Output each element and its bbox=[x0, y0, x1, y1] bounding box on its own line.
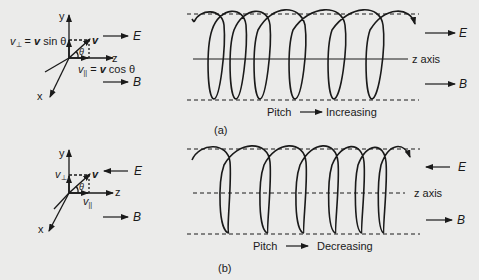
e-field-label-right: E bbox=[459, 26, 468, 40]
e-field-label-left: E bbox=[134, 164, 143, 178]
panel-b: y z x v θ v⊥ v|| E B z axis E B Pitch De… bbox=[38, 146, 467, 274]
panel-a: y z x v θ v⊥ = v sin θ v|| = v cos θ E B… bbox=[10, 10, 468, 136]
velocity-label: v bbox=[92, 34, 99, 46]
theta-arc bbox=[76, 51, 78, 58]
e-field-label-left: E bbox=[133, 29, 142, 43]
y-axis-label: y bbox=[59, 10, 65, 22]
x-axis-arrow bbox=[49, 193, 69, 231]
helix-diagram: y z x v θ v⊥ = v sin θ v|| = v cos θ E B… bbox=[0, 0, 479, 280]
caption-a: (a) bbox=[214, 124, 227, 136]
theta-label: θ bbox=[79, 182, 84, 192]
velocity-label: v bbox=[92, 168, 99, 180]
b-field-label-right: B bbox=[459, 77, 467, 91]
v-perp-equation: v⊥ = v sin θ bbox=[10, 35, 66, 48]
v-par-equation: v|| = v cos θ bbox=[78, 63, 135, 77]
pitch-trend: Decreasing bbox=[317, 240, 373, 252]
v-par-label: v|| bbox=[83, 195, 92, 209]
z-axis-label: z bbox=[115, 186, 121, 198]
b-field-label-left: B bbox=[133, 210, 141, 224]
b-field-label-left: B bbox=[133, 75, 141, 89]
pitch-label: Pitch bbox=[253, 240, 277, 252]
b-field-label-right: B bbox=[457, 213, 465, 227]
e-field-label-right: E bbox=[458, 160, 467, 174]
z-axis-text: z axis bbox=[412, 53, 441, 65]
helix-increasing bbox=[194, 10, 415, 99]
pitch-trend: Increasing bbox=[326, 106, 377, 118]
z-axis-text: z axis bbox=[414, 187, 443, 199]
helix-start-tick bbox=[192, 19, 194, 22]
theta-arc bbox=[76, 186, 78, 193]
caption-b: (b) bbox=[218, 262, 231, 274]
x-axis-label: x bbox=[37, 90, 43, 102]
helix-decreasing bbox=[192, 146, 410, 233]
y-axis-label: y bbox=[59, 147, 65, 159]
theta-label: θ bbox=[79, 47, 84, 57]
x-axis-label: x bbox=[38, 223, 44, 235]
v-perp-label: v⊥ bbox=[55, 168, 67, 181]
pitch-label: Pitch bbox=[267, 106, 291, 118]
